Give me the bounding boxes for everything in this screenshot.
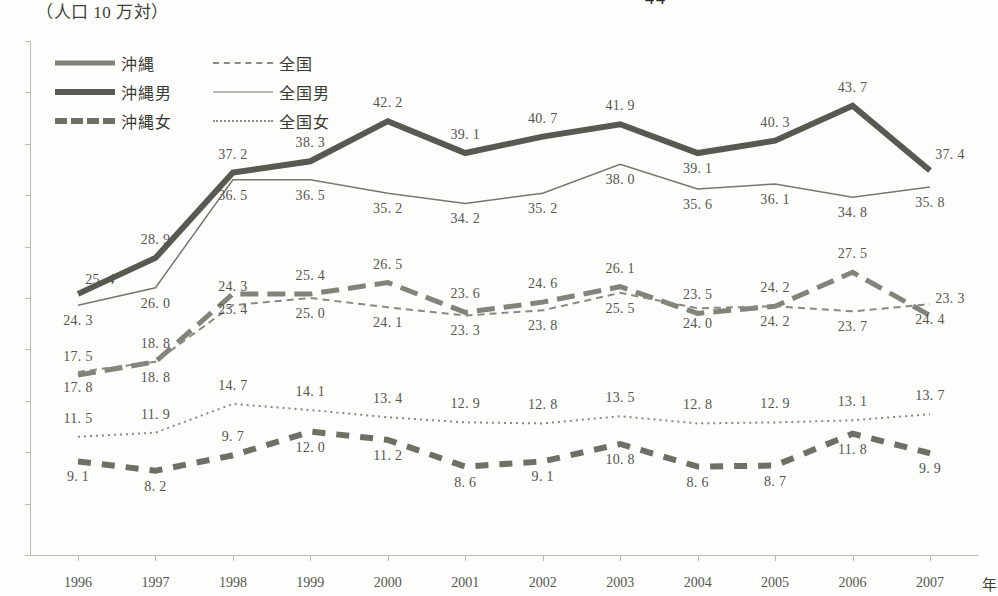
legend-swatch-all_japan_male bbox=[213, 85, 273, 99]
data-label-all_japan_female-2002: 12. 8 bbox=[528, 397, 558, 413]
data-label-all_japan-1996: 17. 8 bbox=[63, 380, 93, 396]
data-label-okinawa_male-2007: 37. 4 bbox=[935, 147, 965, 163]
x-axis-tick-label: 2001 bbox=[451, 575, 479, 591]
x-axis-tick bbox=[620, 555, 621, 561]
data-label-okinawa_male-2001: 39. 1 bbox=[451, 127, 481, 143]
chart-legend: 沖縄全国沖縄男全国男沖縄女全国女 bbox=[55, 48, 365, 135]
data-label-all_japan_female-2006: 13. 1 bbox=[838, 394, 868, 410]
data-label-okinawa_female-1999: 12. 0 bbox=[296, 440, 326, 456]
data-label-all_japan-1998: 24. 3 bbox=[218, 279, 248, 295]
data-label-all_japan_female-1998: 14. 7 bbox=[218, 378, 248, 394]
x-axis-tick-label: 2006 bbox=[839, 575, 867, 591]
data-label-okinawa-1996: 17. 5 bbox=[63, 349, 93, 365]
x-axis-tick-label: 2005 bbox=[761, 575, 789, 591]
data-label-okinawa_male-2005: 40. 3 bbox=[760, 115, 790, 131]
x-axis-tick bbox=[388, 555, 389, 561]
data-label-all_japan_female-1997: 11. 9 bbox=[141, 407, 170, 423]
data-label-okinawa-2002: 24. 6 bbox=[528, 276, 558, 292]
data-label-all_japan_female-2003: 13. 5 bbox=[605, 390, 635, 406]
data-label-okinawa_female-1996: 9. 1 bbox=[67, 469, 89, 485]
data-label-all_japan_male-1996: 24. 3 bbox=[63, 313, 93, 329]
data-label-okinawa-2000: 26. 5 bbox=[373, 257, 403, 273]
data-label-okinawa-2004: 23. 5 bbox=[683, 287, 713, 303]
x-axis-tick-label: 2003 bbox=[606, 575, 634, 591]
legend-item-all_japan: 全国 bbox=[213, 48, 313, 77]
data-label-okinawa_male-2000: 42. 2 bbox=[373, 95, 403, 111]
data-label-all_japan-1997: 18. 8 bbox=[141, 370, 171, 386]
data-label-all_japan_female-2005: 12. 9 bbox=[760, 396, 790, 412]
data-label-okinawa-2003: 26. 1 bbox=[605, 261, 635, 277]
x-axis-tick bbox=[155, 555, 156, 561]
data-label-all_japan_female-2004: 12. 8 bbox=[683, 397, 713, 413]
legend-label-all_japan: 全国 bbox=[279, 51, 313, 75]
x-axis-tick bbox=[233, 555, 234, 561]
data-label-okinawa-2006: 27. 5 bbox=[838, 246, 868, 262]
x-axis-tick bbox=[310, 555, 311, 561]
data-label-okinawa_male-1996: 25. 4 bbox=[85, 272, 115, 288]
data-label-all_japan_male-2004: 35. 6 bbox=[683, 197, 713, 213]
x-axis-tick-label: 2004 bbox=[684, 575, 712, 591]
x-axis-tick bbox=[698, 555, 699, 561]
data-label-okinawa_male-2003: 41. 9 bbox=[605, 98, 635, 114]
page-number: 44 bbox=[645, 0, 667, 9]
data-label-all_japan-2002: 23. 8 bbox=[528, 318, 558, 334]
x-axis-tick bbox=[853, 555, 854, 561]
x-axis-tick bbox=[78, 555, 79, 561]
legend-label-okinawa_male: 沖縄男 bbox=[121, 80, 172, 104]
x-axis-tick-label: 2002 bbox=[529, 575, 557, 591]
data-label-okinawa_male-1998: 37. 2 bbox=[218, 147, 248, 163]
data-label-all_japan_male-2005: 36. 1 bbox=[760, 192, 790, 208]
data-label-all_japan-2000: 24. 1 bbox=[373, 315, 403, 331]
x-axis-tick-label: 2007 bbox=[916, 575, 944, 591]
legend-item-okinawa_male: 沖縄男 bbox=[55, 77, 172, 106]
data-label-all_japan_male-1999: 36. 5 bbox=[296, 188, 326, 204]
data-label-all_japan_female-1999: 14. 1 bbox=[296, 384, 326, 400]
legend-item-okinawa_female: 沖縄女 bbox=[55, 106, 172, 135]
data-label-okinawa_female-2006: 11. 8 bbox=[838, 442, 867, 458]
data-label-all_japan_male-2000: 35. 2 bbox=[373, 201, 403, 217]
legend-swatch-all_japan bbox=[213, 56, 273, 70]
data-label-okinawa-2001: 23. 6 bbox=[451, 286, 481, 302]
legend-swatch-okinawa bbox=[55, 56, 115, 70]
data-label-all_japan_male-2002: 35. 2 bbox=[528, 201, 558, 217]
data-label-okinawa_female-2007: 9. 9 bbox=[919, 461, 941, 477]
data-label-okinawa_female-2000: 11. 2 bbox=[373, 448, 402, 464]
data-label-all_japan_male-2006: 34. 8 bbox=[838, 205, 868, 221]
data-label-okinawa_male-2006: 43. 7 bbox=[838, 80, 868, 96]
data-label-all_japan_male-2003: 38. 0 bbox=[605, 172, 635, 188]
data-label-okinawa_male-2002: 40. 7 bbox=[528, 111, 558, 127]
chart-figure: （人口 10 万対） 44 00000000000 19961997199819… bbox=[0, 0, 998, 596]
legend-label-all_japan_male: 全国男 bbox=[279, 80, 330, 104]
data-label-all_japan_female-2000: 13. 4 bbox=[373, 391, 403, 407]
legend-label-okinawa_female: 沖縄女 bbox=[121, 109, 172, 133]
data-label-okinawa_male-2004: 39. 1 bbox=[683, 161, 713, 177]
data-label-okinawa_male-1999: 38. 3 bbox=[296, 135, 326, 151]
data-label-all_japan-2004: 24. 0 bbox=[683, 316, 713, 332]
data-label-okinawa_female-2003: 10. 8 bbox=[605, 452, 635, 468]
data-label-all_japan_female-2007: 13. 7 bbox=[915, 388, 945, 404]
data-label-okinawa-1998: 25. 4 bbox=[218, 302, 248, 318]
y-axis-unit-note: （人口 10 万対） bbox=[36, 0, 169, 23]
data-label-okinawa_female-2002: 9. 1 bbox=[532, 469, 554, 485]
data-label-all_japan_male-1998: 36. 5 bbox=[218, 188, 248, 204]
legend-label-okinawa: 沖縄 bbox=[121, 51, 155, 75]
x-axis-tick-label: 1997 bbox=[141, 575, 169, 591]
legend-item-all_japan_male: 全国男 bbox=[213, 77, 330, 106]
legend-item-all_japan_female: 全国女 bbox=[213, 106, 330, 135]
legend-item-okinawa: 沖縄 bbox=[55, 48, 155, 77]
data-label-okinawa_female-1997: 8. 2 bbox=[144, 479, 166, 495]
x-axis-tick bbox=[930, 555, 931, 561]
x-axis-line bbox=[30, 555, 978, 556]
data-label-okinawa_female-1998: 9. 7 bbox=[222, 429, 244, 445]
data-label-all_japan-2007: 24. 4 bbox=[915, 312, 945, 328]
x-axis-tick-label: 1996 bbox=[64, 575, 92, 591]
data-label-okinawa-2005: 24. 2 bbox=[760, 280, 790, 296]
x-axis-title: 年 bbox=[982, 573, 997, 594]
data-label-all_japan-2005: 24. 2 bbox=[760, 314, 790, 330]
legend-swatch-okinawa_male bbox=[55, 85, 115, 99]
data-label-all_japan_male-2007: 35. 8 bbox=[915, 195, 945, 211]
legend-swatch-okinawa_female bbox=[55, 114, 115, 128]
data-label-okinawa-2007: 23. 3 bbox=[935, 291, 965, 307]
data-label-all_japan_female-2001: 12. 9 bbox=[451, 396, 481, 412]
data-label-all_japan_male-1997: 26. 0 bbox=[141, 296, 171, 312]
